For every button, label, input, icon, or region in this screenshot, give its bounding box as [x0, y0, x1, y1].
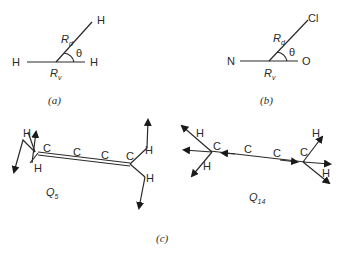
svg-text:C: C: [73, 146, 81, 158]
svg-text:H: H: [34, 162, 42, 174]
panel-b: N O Cl Rd Rv θ (b): [227, 12, 318, 107]
rv-label: Rv: [264, 67, 276, 81]
svg-text:H: H: [145, 144, 153, 156]
caption-c: (c): [156, 232, 169, 245]
rv-label: Rv: [50, 67, 62, 81]
svg-text:C: C: [273, 147, 281, 159]
atom-h-top: H: [97, 14, 105, 26]
svg-text:C: C: [43, 142, 51, 154]
caption-a: (a): [48, 94, 61, 107]
svg-text:H: H: [203, 160, 211, 172]
q14-mode-diagram: H H C C C C H H Q14: [182, 126, 330, 205]
rd-label: Rd: [61, 33, 74, 47]
atom-h-right: H: [90, 56, 98, 68]
atom-cl: Cl: [308, 12, 318, 24]
atom-h-left: H: [12, 56, 20, 68]
svg-text:C: C: [244, 143, 252, 155]
caption-b: (b): [260, 94, 273, 107]
svg-text:C: C: [101, 149, 109, 161]
q5-mode-diagram: H H C C C C H H Q5: [14, 120, 154, 208]
rd-label: Rd: [273, 32, 286, 46]
theta-label: θ: [289, 46, 295, 58]
atom-n: N: [227, 55, 235, 67]
svg-text:H: H: [312, 127, 320, 139]
svg-text:H: H: [23, 127, 31, 139]
svg-text:H: H: [146, 172, 154, 184]
panel-a: H H H Rd Rv θ (a): [12, 14, 105, 107]
svg-text:H: H: [196, 127, 204, 139]
svg-text:H: H: [322, 167, 330, 179]
diagram-canvas: H H H Rd Rv θ (a) N O Cl Rd Rv θ (b) H H…: [0, 0, 338, 257]
q14-label: Q14: [249, 191, 265, 205]
svg-text:C: C: [126, 150, 134, 162]
q5-label: Q5: [46, 186, 59, 200]
atom-o: O: [302, 55, 311, 67]
svg-text:C: C: [213, 140, 221, 152]
svg-text:C: C: [300, 146, 308, 158]
theta-label: θ: [76, 47, 82, 59]
